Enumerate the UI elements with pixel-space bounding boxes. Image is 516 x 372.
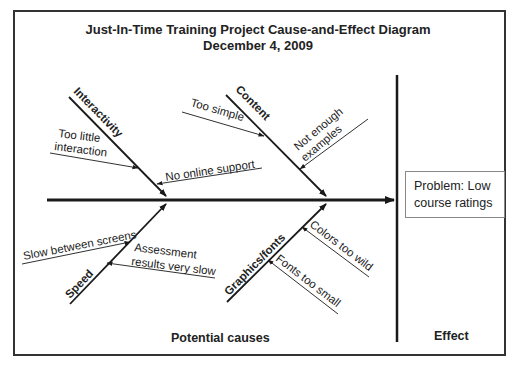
- effect-problem-line1: Problem: Low: [414, 178, 504, 195]
- effect-label: Effect: [434, 329, 469, 343]
- cause-no-online-support: No online support: [165, 158, 257, 183]
- cause-results-very-slow: results very slow: [131, 255, 218, 277]
- cause-slow-between-screens: Slow between screens: [22, 228, 137, 262]
- cause-colors-too-wild: Colors too wild: [308, 218, 375, 273]
- effect-problem-box: Problem: Low course ratings: [405, 171, 505, 218]
- potential-causes-label: Potential causes: [171, 331, 270, 345]
- cause-fonts-too-small: Fonts too small: [274, 252, 343, 309]
- effect-problem-line2: course ratings: [414, 195, 504, 212]
- cause-too-simple: Too simple: [189, 96, 245, 123]
